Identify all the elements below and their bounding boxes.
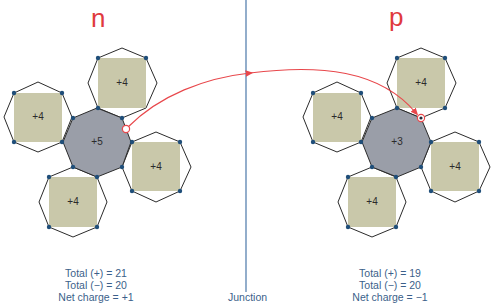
n-region-title: n — [91, 5, 105, 31]
hole-icon — [122, 125, 129, 132]
junction-label: Junction — [228, 291, 267, 303]
p-total-negative: Total (−) = 20 — [330, 279, 450, 291]
electron-transfer-arrow — [128, 73, 250, 127]
p-net-charge: Net charge = −1 — [330, 291, 450, 303]
n-bottom-charge: +4 — [59, 196, 87, 207]
n-total-positive: Total (+) = 21 — [36, 267, 156, 279]
n-net-charge: Net charge = +1 — [36, 291, 156, 303]
p-right-charge: +4 — [441, 161, 469, 172]
p-left-charge: +4 — [323, 111, 351, 122]
n-total-negative: Total (−) = 20 — [36, 279, 156, 291]
p-center-charge: +3 — [383, 136, 411, 147]
n-totals: Total (+) = 21 Total (−) = 20 Net charge… — [36, 267, 156, 303]
p-region-title: p — [389, 4, 403, 30]
p-bottom-charge: +4 — [358, 196, 386, 207]
n-right-charge: +4 — [142, 161, 170, 172]
p-totals: Total (+) = 19 Total (−) = 20 Net charge… — [330, 267, 450, 303]
electron-icon — [417, 114, 424, 121]
n-left-charge: +4 — [24, 111, 52, 122]
n-top-charge: +4 — [108, 77, 136, 88]
diagram-canvas — [0, 0, 494, 308]
n-center-charge: +5 — [83, 136, 111, 147]
p-total-positive: Total (+) = 19 — [330, 267, 450, 279]
p-top-charge: +4 — [407, 77, 435, 88]
